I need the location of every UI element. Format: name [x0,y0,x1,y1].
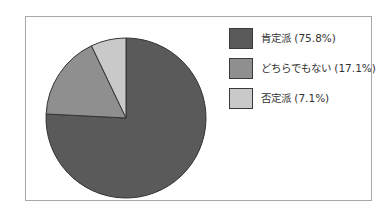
legend-item: どちらでもない (17.1%) [229,58,376,79]
legend-swatch-neutral [229,58,253,79]
legend-swatch-negative [229,88,253,109]
chart-panel: 肯定派 (75.8%) どちらでもない (17.1%) 否定派 (7.1%) [0,0,391,217]
legend-label-affirmative: 肯定派 (75.8%) [261,33,336,44]
pie-chart [44,36,208,200]
legend-item: 否定派 (7.1%) [229,88,376,109]
legend-item: 肯定派 (75.8%) [229,28,376,49]
legend-label-negative: 否定派 (7.1%) [261,93,329,104]
legend: 肯定派 (75.8%) どちらでもない (17.1%) 否定派 (7.1%) [229,28,376,109]
plot-area-frame: 肯定派 (75.8%) どちらでもない (17.1%) 否定派 (7.1%) [25,16,372,201]
legend-label-neutral: どちらでもない (17.1%) [261,63,376,74]
legend-swatch-affirmative [229,28,253,49]
